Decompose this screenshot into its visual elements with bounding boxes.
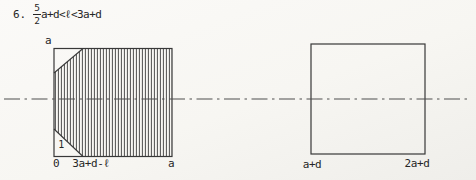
left-square-top-left-label: a xyxy=(45,35,51,46)
left-square-bottom-right-label: a xyxy=(168,158,174,169)
left-square-origin-label: 0 xyxy=(53,158,59,169)
hatched-region xyxy=(54,49,172,157)
scanned-textbook-figure: 6. 5 2 a+d<ℓ<3a+d a 0 3a+d-ℓ a 1 a+d 2a+… xyxy=(0,0,476,180)
left-square-bottom-mid-label: 3a+d-ℓ xyxy=(72,158,109,169)
right-square-bottom-right-label: 2a+d xyxy=(405,158,430,169)
right-square-bottom-left-label: a+d xyxy=(303,159,322,170)
figure-canvas xyxy=(0,0,476,180)
triangle-label: 1 xyxy=(58,140,64,150)
